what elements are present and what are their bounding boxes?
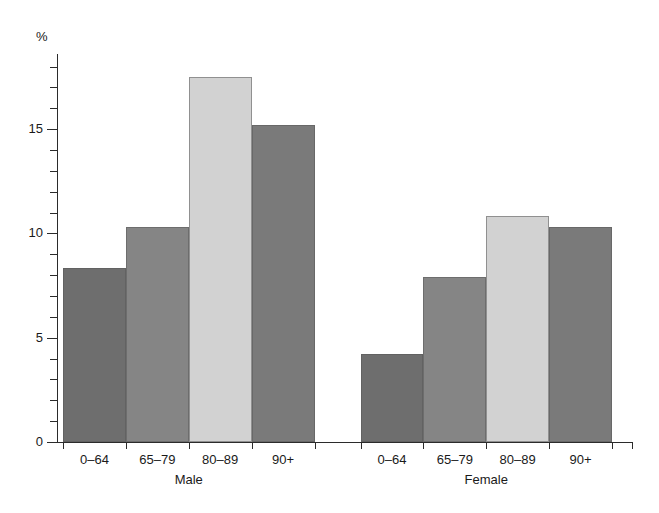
- y-axis-tick-minor: [50, 400, 57, 401]
- y-axis-tick-label: 0: [3, 435, 43, 448]
- y-axis-tick-minor: [50, 192, 57, 193]
- bar: [126, 227, 189, 442]
- bar: [549, 227, 612, 442]
- x-axis-category-label: 90+: [549, 452, 612, 467]
- y-axis-tick-minor: [50, 171, 57, 172]
- x-axis-category-label: 65–79: [423, 452, 486, 467]
- y-axis-tick-minor: [50, 296, 57, 297]
- plot-area: [57, 54, 632, 442]
- x-axis-category-label: 65–79: [126, 452, 189, 467]
- y-axis-tick-minor: [50, 150, 57, 151]
- x-axis-category-label: 80–89: [189, 452, 252, 467]
- x-axis-group-tick: [63, 442, 64, 449]
- y-axis-tick-major: [47, 233, 57, 234]
- y-axis-tick-minor: [50, 317, 57, 318]
- x-axis-tick: [252, 442, 253, 449]
- y-axis-tick-minor: [50, 87, 57, 88]
- x-axis-group-tick: [612, 442, 613, 449]
- x-axis-category-label: 0–64: [361, 452, 424, 467]
- x-axis-tick: [423, 442, 424, 449]
- x-axis-end-tick: [632, 442, 633, 449]
- bar: [361, 354, 424, 442]
- bar: [252, 125, 315, 442]
- y-axis-tick-minor: [50, 359, 57, 360]
- y-axis-tick-major: [47, 442, 57, 443]
- y-axis-tick-major: [47, 129, 57, 130]
- x-axis-category-label: 0–64: [63, 452, 126, 467]
- y-axis-tick-major: [47, 338, 57, 339]
- y-axis-tick-minor: [50, 213, 57, 214]
- x-axis-group-label: Male: [63, 472, 315, 487]
- bar-chart: % 051015 0–6465–7980–8990+0–6465–7980–89…: [0, 0, 659, 513]
- y-axis-tick-minor: [50, 275, 57, 276]
- y-axis-tick-label-wrap: 5: [0, 331, 43, 344]
- x-axis-tick: [189, 442, 190, 449]
- y-axis-tick-minor: [50, 379, 57, 380]
- x-axis-group-tick: [315, 442, 316, 449]
- y-axis-tick-label-wrap: 15: [0, 122, 43, 135]
- bar: [423, 277, 486, 442]
- y-axis-tick-label-wrap: 10: [0, 226, 43, 239]
- y-axis-tick-label: 10: [3, 226, 43, 239]
- x-axis-group-tick: [361, 442, 362, 449]
- bar: [63, 268, 126, 442]
- x-axis-tick: [486, 442, 487, 449]
- y-axis-tick-label: 15: [3, 122, 43, 135]
- y-axis-tick-label-wrap: 0: [0, 435, 43, 448]
- x-axis-line: [57, 442, 632, 443]
- y-axis-tick-minor: [50, 421, 57, 422]
- x-axis-tick: [126, 442, 127, 449]
- x-axis-category-label: 80–89: [486, 452, 549, 467]
- x-axis-tick: [549, 442, 550, 449]
- y-axis-tick-minor: [50, 67, 57, 68]
- y-axis-title: %: [36, 30, 48, 43]
- x-axis-group-label: Female: [361, 472, 613, 487]
- bar: [486, 216, 549, 442]
- y-axis-tick-minor: [50, 254, 57, 255]
- x-axis-category-label: 90+: [252, 452, 315, 467]
- y-axis-tick-label: 5: [3, 331, 43, 344]
- bar: [189, 77, 252, 442]
- y-axis-tick-minor: [50, 108, 57, 109]
